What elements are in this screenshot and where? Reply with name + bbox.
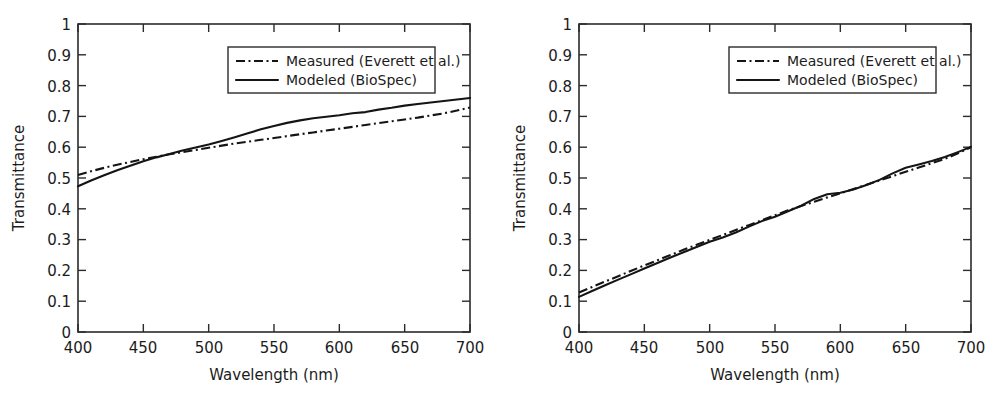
x-tick-label: 450 [129,339,158,357]
y-tick-label: 1 [562,16,572,34]
y-tick-label: 0.9 [548,47,572,65]
legend-label-modeled: Modeled (BioSpec) [787,72,918,88]
x-axis-title: Wavelength (nm) [710,366,840,384]
x-tick-label: 650 [892,339,921,357]
x-tick-label: 450 [630,339,659,357]
legend-label-measured: Measured (Everett et al.) [286,53,460,69]
series-modeled-line [78,98,470,186]
x-tick-label: 550 [260,339,289,357]
y-tick-label: 0.1 [47,293,71,311]
y-tick-label: 0.7 [47,108,71,126]
chart-panel-left: 1 0.9 0.8 0.7 0.6 0.5 0.4 0.3 0.2 0.1 0 … [0,0,501,408]
y-tick-label: 0.4 [548,201,572,219]
x-tick-label: 650 [391,339,420,357]
y-tick-label: 0.2 [47,262,71,280]
y-tick-labels-right: 1 0.9 0.8 0.7 0.6 0.5 0.4 0.3 0.2 0.1 0 [548,16,572,342]
y-tick-label: 0.3 [548,231,572,249]
y-tick-label: 0.6 [548,139,572,157]
x-tick-label: 500 [195,339,224,357]
y-tick-label: 0.7 [548,108,572,126]
y-tick-label: 0.4 [47,201,71,219]
legend-right: Measured (Everett et al.) Modeled (BioSp… [729,47,961,93]
y-tick-label: 0.5 [47,170,71,188]
x-axis-title: Wavelength (nm) [209,366,339,384]
plot-svg-left: 1 0.9 0.8 0.7 0.6 0.5 0.4 0.3 0.2 0.1 0 … [0,0,501,408]
series-measured-line [78,107,470,174]
x-tick-labels-left: 400 450 500 550 600 650 700 [64,339,485,357]
y-tick-label: 0.8 [548,78,572,96]
y-tick-label: 0.9 [47,47,71,65]
y-axis-title: Transmittance [511,125,529,232]
y-tick-label: 0.6 [47,139,71,157]
x-tick-label: 550 [761,339,790,357]
y-tick-labels-left: 1 0.9 0.8 0.7 0.6 0.5 0.4 0.3 0.2 0.1 0 [47,16,71,342]
legend-label-measured: Measured (Everett et al.) [787,53,961,69]
x-tick-label: 700 [456,339,485,357]
y-axis-title: Transmittance [10,125,28,232]
y-tick-label: 0.2 [548,262,572,280]
legend-label-modeled: Modeled (BioSpec) [286,72,417,88]
x-tick-label: 400 [565,339,594,357]
x-tick-label: 400 [64,339,93,357]
y-tick-label: 0.1 [548,293,572,311]
x-tick-label: 600 [325,339,354,357]
x-tick-label: 700 [957,339,986,357]
x-tick-labels-right: 400 450 500 550 600 650 700 [565,339,986,357]
figure-root: 1 0.9 0.8 0.7 0.6 0.5 0.4 0.3 0.2 0.1 0 … [0,0,1002,408]
y-tick-label: 0.8 [47,78,71,96]
chart-panel-right: 1 0.9 0.8 0.7 0.6 0.5 0.4 0.3 0.2 0.1 0 … [501,0,1002,408]
x-tick-label: 600 [826,339,855,357]
y-tick-label: 0.3 [47,231,71,249]
x-tick-label: 500 [696,339,725,357]
y-tick-label: 1 [61,16,71,34]
legend-left: Measured (Everett et al.) Modeled (BioSp… [228,47,460,93]
y-tick-label: 0.5 [548,170,572,188]
plot-svg-right: 1 0.9 0.8 0.7 0.6 0.5 0.4 0.3 0.2 0.1 0 … [501,0,1002,408]
